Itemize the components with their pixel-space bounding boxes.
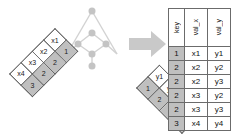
result-header-val-x: val_x: [185, 9, 208, 47]
graph-node: [103, 41, 110, 48]
result-cell-val-x: x2: [185, 75, 208, 89]
result-cell-val-x: x3: [185, 103, 208, 117]
result-cell-key: 1: [169, 47, 185, 61]
result-cell-val-y: y3: [208, 75, 231, 89]
result-cell-val-y: y2: [208, 61, 231, 75]
graph-node: [89, 8, 96, 15]
result-table: key val_x val_y 1 x1 y1 2 x2 y2 2 x2 y3 …: [168, 8, 231, 131]
table-row: 2 x3 y3: [169, 103, 231, 117]
result-cell-key: 2: [169, 89, 185, 103]
table-row: 2 x2 y3: [169, 75, 231, 89]
result-cell-val-y: y3: [208, 103, 231, 117]
result-cell-val-x: x2: [185, 61, 208, 75]
graph-node: [89, 30, 96, 37]
result-header-row: key val_x val_y: [169, 9, 231, 47]
result-cell-key: 3: [169, 117, 185, 131]
table-row: 3 x4 y4: [169, 117, 231, 131]
result-cell-val-y: y4: [208, 117, 231, 131]
result-cell-val-x: x3: [185, 89, 208, 103]
result-header-val-y: val_y: [208, 9, 231, 47]
table-row: 2 x3 y2: [169, 89, 231, 103]
result-cell-key: 2: [169, 75, 185, 89]
arrow-right-icon: [129, 30, 167, 58]
result-cell-key: 2: [169, 61, 185, 75]
result-cell-val-y: y1: [208, 47, 231, 61]
result-cell-val-x: x4: [185, 117, 208, 131]
graph-node: [89, 51, 96, 58]
graph-node: [89, 63, 96, 70]
result-header-key: key: [169, 9, 185, 47]
table-row: 2 x2 y2: [169, 61, 231, 75]
result-cell-val-y: y2: [208, 89, 231, 103]
result-cell-key: 2: [169, 103, 185, 117]
join-diagram: x1 1 x2 2 x3 2 x4 3 1 y1 2: [0, 0, 237, 136]
result-cell-val-x: x1: [185, 47, 208, 61]
graph-node: [75, 41, 82, 48]
table-row: 1 x1 y1: [169, 47, 231, 61]
